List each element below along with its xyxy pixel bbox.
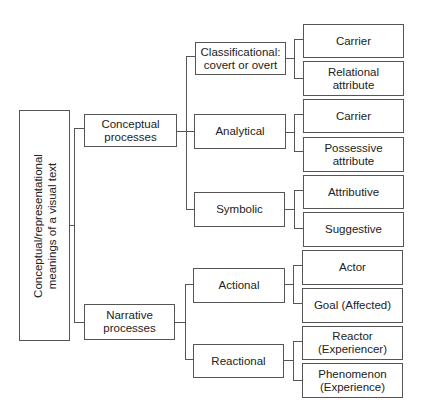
root-label-line1: Conceptual/representational — [31, 154, 45, 298]
connector — [294, 39, 295, 79]
connector — [293, 341, 294, 381]
connector — [186, 131, 194, 132]
connector — [294, 151, 303, 152]
connector — [294, 228, 303, 229]
node-narrative-processes: Narrative processes — [84, 304, 175, 340]
connector — [74, 322, 84, 323]
node-reactional: Reactional — [193, 344, 284, 378]
connector — [186, 56, 195, 57]
connector — [294, 78, 303, 79]
connector — [185, 284, 193, 285]
connector — [294, 114, 295, 152]
node-actional: Actional — [193, 268, 285, 303]
connector — [293, 303, 302, 304]
connector — [294, 190, 295, 229]
node-classificational: Classificational: covert or overt — [195, 42, 286, 75]
connector — [185, 284, 186, 360]
root-node: Conceptual/representational meanings of … — [19, 110, 70, 341]
connector — [293, 265, 294, 304]
node-actor: Actor — [302, 250, 403, 285]
node-possessive-attribute: Possessive attribute — [303, 137, 404, 172]
connector — [74, 128, 84, 129]
node-carrier-analytical: Carrier — [303, 99, 404, 133]
connector — [186, 209, 194, 210]
node-attributive: Attributive — [303, 175, 404, 209]
connector — [74, 128, 75, 323]
connector — [293, 265, 302, 266]
node-phenomenon-experience: Phenomenon (Experience) — [302, 363, 403, 398]
root-label: Conceptual/representational meanings of … — [31, 154, 59, 298]
connector — [293, 341, 302, 342]
node-reactor-experiencer: Reactor (Experiencer) — [302, 326, 403, 360]
connector — [294, 39, 303, 40]
node-analytical: Analytical — [194, 114, 286, 149]
connector — [294, 114, 303, 115]
root-label-line2: meanings of a visual text — [45, 154, 59, 298]
node-suggestive: Suggestive — [303, 212, 404, 247]
connector — [185, 359, 193, 360]
connector — [293, 380, 302, 381]
node-carrier-classificational: Carrier — [303, 24, 404, 58]
node-symbolic: Symbolic — [194, 192, 285, 227]
node-goal-affected: Goal (Affected) — [302, 288, 403, 323]
connector — [186, 56, 187, 210]
connector — [294, 190, 303, 191]
node-conceptual-processes: Conceptual processes — [84, 114, 177, 147]
node-relational-attribute: Relational attribute — [303, 61, 404, 96]
